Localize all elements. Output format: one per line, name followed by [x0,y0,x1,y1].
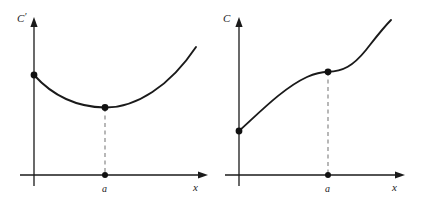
y-axis-arrowhead-icon [30,17,37,27]
chart-panel-right: C x a [211,0,422,202]
x-axis-right [225,171,405,178]
curve-cost [239,20,391,131]
x-axis-label-left: x [192,181,198,193]
x-axis-label-right: x [391,181,397,193]
y-axis-right [235,17,242,186]
point-y-intercept-left [31,72,38,79]
point-inflection-right [325,68,332,75]
chart-panel-left: C′ x a [0,0,211,202]
point-x-axis-a-left [102,172,108,178]
y-axis-label-right: C [223,12,231,24]
x-tick-label-a-right: a [325,183,330,194]
x-tick-label-a-left: a [102,183,107,194]
curve-marginal-cost [34,47,196,108]
point-x-axis-a-right [325,172,331,178]
y-axis-left [30,17,37,186]
x-axis-left [20,171,208,178]
point-minimum-left [102,104,109,111]
x-axis-arrowhead-icon [395,171,405,178]
point-y-intercept-right [236,128,243,135]
y-axis-label-left: C′ [17,11,27,24]
y-axis-arrowhead-icon [235,17,242,27]
figure-container: C′ x a C x [0,0,422,202]
x-axis-arrowhead-icon [198,171,208,178]
